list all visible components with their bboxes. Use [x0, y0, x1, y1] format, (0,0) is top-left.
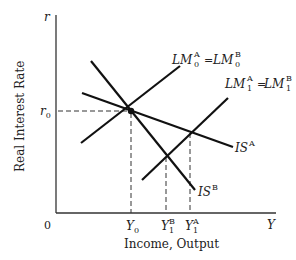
- x-axis-symbol: Y: [267, 218, 276, 232]
- y1b-sub: 1: [169, 226, 174, 235]
- svg-text:LM: LM: [212, 53, 234, 67]
- is-a-label: IS A: [234, 139, 255, 155]
- svg-text:B: B: [286, 74, 292, 83]
- y0-label: Y0: [126, 219, 139, 235]
- svg-text:A: A: [246, 74, 253, 83]
- y1a-sup: A: [192, 217, 199, 226]
- lm1-label: LM A 1 = LM B 1: [224, 74, 292, 93]
- equilibrium-point: [128, 108, 134, 114]
- is-b-curve: [91, 61, 195, 190]
- svg-text:A: A: [248, 139, 255, 148]
- svg-text:LM: LM: [224, 77, 246, 91]
- svg-text:A: A: [193, 50, 200, 59]
- is-a-curve: [82, 93, 233, 147]
- lm0-label: LM A 0 = LM B 0: [171, 50, 241, 69]
- y1b-sup: B: [169, 217, 175, 226]
- is-lm-diagram: r Y 0 Real Interest Rate Income, Output …: [0, 0, 296, 260]
- svg-text:0: 0: [235, 60, 240, 69]
- y-axis-symbol: r: [44, 10, 51, 24]
- svg-text:=: =: [204, 54, 213, 67]
- svg-text:LM: LM: [171, 53, 193, 67]
- svg-text:B: B: [212, 183, 218, 192]
- r0-label: r0: [40, 104, 51, 120]
- svg-text:IS: IS: [234, 141, 248, 155]
- svg-text:1: 1: [286, 84, 291, 93]
- is-b-label: IS B: [197, 183, 218, 199]
- svg-text:0: 0: [194, 60, 199, 69]
- svg-text:1: 1: [247, 84, 252, 93]
- svg-text:B: B: [235, 50, 241, 59]
- x-axis-title: Income, Output: [124, 237, 219, 251]
- svg-text:IS: IS: [197, 185, 211, 199]
- y1a-sub: 1: [193, 226, 198, 235]
- y-axis-title: Real Interest Rate: [13, 61, 27, 172]
- svg-text:LM: LM: [263, 77, 285, 91]
- origin-label: 0: [44, 219, 51, 232]
